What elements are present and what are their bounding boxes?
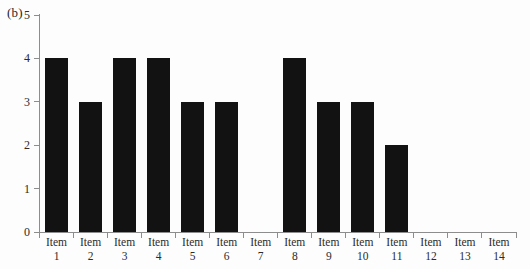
- x-axis-category-label: Item13: [448, 236, 482, 263]
- x-axis-category-label: Item1: [40, 236, 74, 263]
- bar: [147, 58, 170, 232]
- y-tick-mark: [34, 101, 39, 102]
- figure-panel-b: (b) 012345 Item1Item2Item3Item4Item5Item…: [0, 0, 530, 269]
- category-label-line1: Item: [312, 236, 346, 250]
- bar: [181, 102, 204, 232]
- y-tick-label: 5: [8, 9, 30, 21]
- category-label-line1: Item: [380, 236, 414, 250]
- x-axis-category-label: Item2: [74, 236, 108, 263]
- category-label-line2: 11: [380, 250, 414, 264]
- x-axis-category-label: Item6: [210, 236, 244, 263]
- category-label-line1: Item: [244, 236, 278, 250]
- bar: [79, 102, 102, 232]
- y-tick-label: 3: [8, 96, 30, 108]
- x-axis-category-label: Item3: [108, 236, 142, 263]
- category-label-line2: 4: [142, 250, 176, 264]
- category-label-line2: 8: [278, 250, 312, 264]
- bar: [317, 102, 340, 232]
- category-label-line2: 10: [346, 250, 380, 264]
- category-label-line2: 12: [414, 250, 448, 264]
- category-label-line1: Item: [40, 236, 74, 250]
- y-axis-line: [39, 14, 40, 233]
- category-label-line1: Item: [74, 236, 108, 250]
- x-axis-category-label: Item10: [346, 236, 380, 263]
- y-tick-mark: [34, 145, 39, 146]
- y-tick-label: 4: [8, 52, 30, 64]
- y-tick-mark: [34, 188, 39, 189]
- bar: [113, 58, 136, 232]
- y-tick-label: 0: [8, 226, 30, 238]
- category-label-line2: 14: [482, 250, 516, 264]
- category-label-line2: 3: [108, 250, 142, 264]
- category-label-line2: 13: [448, 250, 482, 264]
- y-tick-label: 1: [8, 183, 30, 195]
- x-axis-category-label: Item11: [380, 236, 414, 263]
- category-label-line2: 5: [176, 250, 210, 264]
- y-tick-mark: [34, 15, 39, 16]
- x-axis-category-label: Item9: [312, 236, 346, 263]
- x-axis-category-label: Item5: [176, 236, 210, 263]
- category-label-line2: 1: [40, 250, 74, 264]
- category-label-line1: Item: [210, 236, 244, 250]
- x-axis-category-label: Item4: [142, 236, 176, 263]
- category-label-line1: Item: [142, 236, 176, 250]
- category-label-line2: 2: [74, 250, 108, 264]
- x-axis-category-label: Item8: [278, 236, 312, 263]
- y-tick-label: 2: [8, 139, 30, 151]
- bar: [45, 58, 68, 232]
- x-axis-category-label: Item12: [414, 236, 448, 263]
- bar: [385, 145, 408, 232]
- x-axis-category-label: Item7: [244, 236, 278, 263]
- category-label-line1: Item: [448, 236, 482, 250]
- category-label-line2: 6: [210, 250, 244, 264]
- category-label-line1: Item: [482, 236, 516, 250]
- y-tick-mark: [34, 58, 39, 59]
- category-label-line2: 9: [312, 250, 346, 264]
- category-label-line1: Item: [176, 236, 210, 250]
- x-axis-category-label: Item14: [482, 236, 516, 263]
- category-label-line1: Item: [414, 236, 448, 250]
- bar: [283, 58, 306, 232]
- bar-chart-plot-area: 012345 Item1Item2Item3Item4Item5Item6Ite…: [0, 0, 530, 269]
- category-label-line1: Item: [108, 236, 142, 250]
- category-label-line1: Item: [346, 236, 380, 250]
- category-label-line1: Item: [278, 236, 312, 250]
- category-label-line2: 7: [244, 250, 278, 264]
- bar: [215, 102, 238, 232]
- bar: [351, 102, 374, 232]
